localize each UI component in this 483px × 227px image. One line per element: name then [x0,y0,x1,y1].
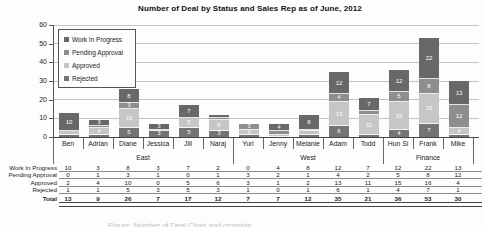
bar-segment-label: 5 [179,128,199,137]
bar-segment: 7 [419,124,439,137]
x-separator [413,138,414,149]
chart-title: Number of Deal by Status and Sales Rep a… [17,4,483,13]
bar-segment-label: 5 [389,92,409,101]
bar: 4 [269,124,289,137]
bar-segment-label: 22 [419,38,439,79]
y-tick [49,100,53,101]
y-tick-label: 20 [0,96,47,103]
bar: 716822 [419,38,439,137]
bar-segment: 10 [119,109,139,128]
bar-segment: 13 [329,102,349,126]
legend: Work In ProgressPending ApprovalApproved… [58,29,136,88]
group-separator [473,138,474,164]
table-row-label: Rejected [0,186,57,193]
y-tick-label: 60 [0,21,47,28]
x-axis-label: Frank [413,140,443,147]
x-axis-label: Jessica [143,140,173,147]
bar-segment: 13 [449,81,469,105]
bar-segment-label: 10 [59,113,79,132]
bar-segment: 6 [209,120,229,131]
bar-segment: 3 [149,131,169,137]
legend-swatch [64,63,69,68]
bar-segment-label: 8 [419,79,439,94]
bar-segment: 4 [389,130,409,137]
bar-segment: 4 [269,124,289,131]
legend-label: Approved [72,62,100,69]
bar-segment-label: 7 [419,124,439,137]
bar: 613412 [329,72,349,137]
bar: 8 [299,115,319,137]
bar-segment-label: 12 [389,70,409,92]
bar-segment-label: 8 [299,115,319,130]
bar: 33 [149,124,169,137]
table-row-label: Pending Approval [0,171,57,178]
y-tick-label: 10 [0,114,47,121]
bar: 10 [59,113,79,137]
bar-segment: 12 [449,105,469,127]
bar-segment-label: 13 [449,81,469,105]
bar-segment-label: 8 [119,89,139,104]
legend-item: Approved [64,60,135,71]
bar-segment [269,135,289,137]
bar-segment-label: 7 [179,105,199,118]
x-separator [203,138,204,149]
bar-segment: 5 [119,128,139,137]
x-axis-label: Mike [443,140,473,147]
y-tick-label: 30 [0,77,47,84]
x-separator [143,138,144,149]
x-separator [263,138,264,149]
y-tick [49,25,53,26]
bar: 43 [89,120,109,137]
legend-item: Pending Approval [64,47,135,58]
x-axis-label: Adam [323,140,353,147]
table-row-label: Approved [0,179,57,186]
x-axis-label: Naraj [203,140,233,147]
y-tick [49,44,53,45]
bar: 51038 [119,88,139,137]
bar-segment: 12 [389,70,409,92]
bar-segment-label: 10 [119,109,139,128]
bar-segment-label: 4 [89,128,109,135]
table-row-label: Total [0,195,57,202]
x-separator [113,138,114,149]
bar-segment: 3 [209,131,229,137]
y-tick [49,118,53,119]
x-separator [293,138,294,149]
plot-area: Work In ProgressPending ApprovalApproved… [53,25,479,138]
bar-segment-label: 11 [359,115,379,136]
bar-segment-label: 15 [389,102,409,130]
table-row-line [59,202,482,207]
bar-segment-label: 6 [209,120,229,131]
bar-segment [359,135,379,137]
bar-segment-label: 5 [179,118,199,127]
bar-segment: 12 [329,72,349,94]
bar-segment-label: 13 [329,102,349,126]
y-tick [49,81,53,82]
x-axis-label: Ben [53,140,83,147]
bar-segment: 8 [119,89,139,104]
bar-segment-label: 3 [149,131,169,137]
group-label: West [233,154,383,161]
x-axis-label: Yuri [233,140,263,147]
group-label: East [53,154,233,161]
x-axis-label: Todd [353,140,383,147]
bar: 41213 [449,81,469,137]
bar-segment-label: 4 [389,130,409,137]
x-separator [173,138,174,149]
bar-segment-label: 5 [119,128,139,137]
x-separator [443,138,444,149]
bar-segment-label: 12 [449,105,469,127]
table-row-label: Work In Progress [0,164,57,171]
bar-segment [299,135,319,137]
bar-segment-label: 4 [329,94,349,101]
bar-segment-label: 7 [359,98,379,111]
bar-segment-label: 4 [269,124,289,131]
x-axis-label: Jill [173,140,203,147]
x-axis-label: Jenny [263,140,293,147]
legend-item: Rejected [64,73,135,84]
y-tick-label: 40 [0,58,47,65]
partial-caption: Figure: Number of Deal Chart and crossta… [108,221,251,227]
bar-segment: 7 [179,105,199,118]
bar-segment: 10 [59,113,79,132]
y-tick-label: 0 [0,133,47,140]
